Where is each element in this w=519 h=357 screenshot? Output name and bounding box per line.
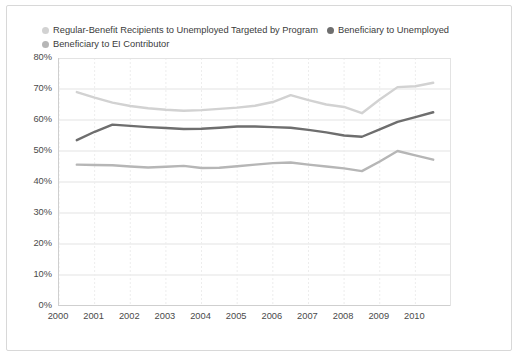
- chart-legend: Regular-Benefit Recipients to Unemployed…: [42, 24, 472, 51]
- x-tick-label: 2010: [404, 311, 425, 321]
- legend-label-beneficiary-to-ei-contributor: Beneficiary to EI Contributor: [53, 39, 169, 49]
- legend-item-beneficiary-to-unemployed[interactable]: Beneficiary to Unemployed: [327, 24, 449, 38]
- filled-circle-icon: [42, 41, 49, 48]
- chart-figure: Regular-Benefit Recipients to Unemployed…: [0, 0, 519, 357]
- legend-label-regular-benefit-recipients: Regular-Benefit Recipients to Unemployed…: [53, 25, 318, 35]
- x-tick-label: 2006: [261, 311, 282, 321]
- filled-circle-icon: [327, 27, 334, 34]
- x-axis-labels: 2000200120022003200420052006200720082009…: [58, 311, 450, 327]
- x-tick-label: 2008: [333, 311, 354, 321]
- y-tick-label: 20%: [8, 238, 52, 248]
- y-tick-label: 80%: [8, 52, 52, 62]
- legend-row-2: Beneficiary to EI Contributor: [42, 38, 472, 52]
- x-tick-label: 2002: [119, 311, 140, 321]
- x-tick-label: 2000: [48, 311, 69, 321]
- y-tick-label: 70%: [8, 83, 52, 93]
- chart-lines: [59, 58, 451, 306]
- y-tick-label: 10%: [8, 269, 52, 279]
- x-tick-label: 2001: [83, 311, 104, 321]
- x-tick-label: 2003: [155, 311, 176, 321]
- legend-row-1: Regular-Benefit Recipients to Unemployed…: [42, 24, 472, 38]
- y-tick-label: 0%: [8, 300, 52, 310]
- y-tick-label: 50%: [8, 145, 52, 155]
- x-tick-label: 2009: [368, 311, 389, 321]
- y-axis-labels: 0%10%20%30%40%50%60%70%80%: [6, 58, 52, 306]
- y-tick-label: 30%: [8, 207, 52, 217]
- x-tick-label: 2007: [297, 311, 318, 321]
- y-tick-label: 60%: [8, 114, 52, 124]
- legend-item-beneficiary-to-ei-contributor[interactable]: Beneficiary to EI Contributor: [42, 38, 169, 52]
- y-tick-label: 40%: [8, 176, 52, 186]
- plot-area: [58, 58, 450, 306]
- x-tick-label: 2004: [190, 311, 211, 321]
- x-tick-label: 2005: [226, 311, 247, 321]
- legend-item-regular-benefit-recipients[interactable]: Regular-Benefit Recipients to Unemployed…: [42, 24, 318, 38]
- filled-circle-icon: [42, 27, 49, 34]
- legend-label-beneficiary-to-unemployed: Beneficiary to Unemployed: [338, 25, 449, 35]
